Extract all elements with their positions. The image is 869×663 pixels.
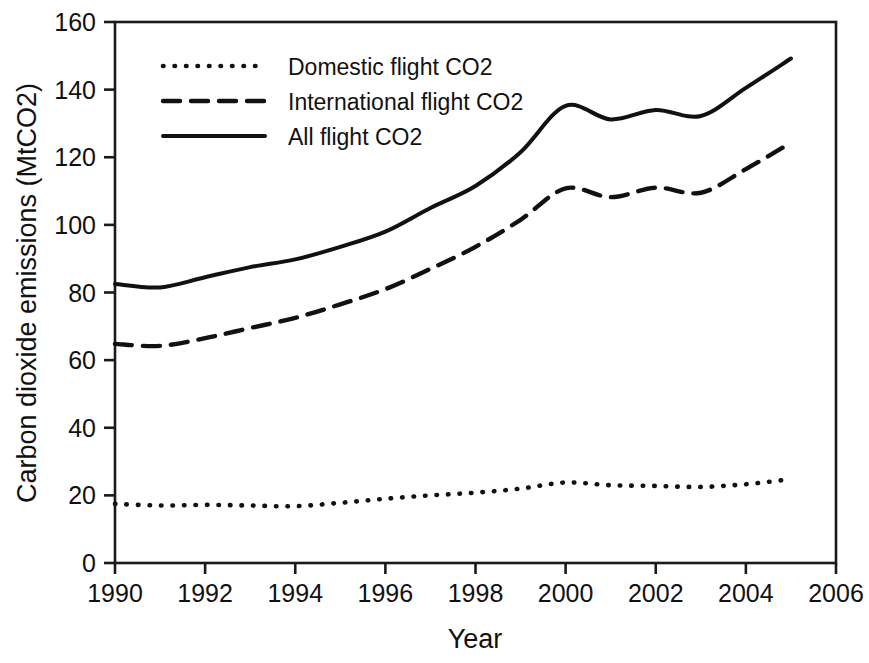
y-tick-label-100: 100 [54, 211, 96, 239]
x-axis-tick-labels: 199019921994199619982000200220042006 [87, 579, 864, 607]
series-line-dashed [115, 143, 791, 346]
y-tick-label-140: 140 [54, 76, 96, 104]
x-tick-label-2000: 2000 [538, 579, 594, 607]
y-tick-label-120: 120 [54, 143, 96, 171]
x-tick-label-1994: 1994 [267, 579, 323, 607]
y-tick-label-40: 40 [68, 414, 96, 442]
series-line-dotted [115, 479, 791, 506]
x-axis-title: Year [448, 624, 503, 654]
y-tick-label-80: 80 [68, 279, 96, 307]
legend-label-2: All flight CO2 [288, 124, 422, 150]
legend-label-1: International flight CO2 [288, 89, 523, 115]
x-tick-label-2002: 2002 [628, 579, 684, 607]
x-axis-ticks [115, 563, 836, 574]
y-tick-label-20: 20 [68, 481, 96, 509]
chart-legend: Domestic flight CO2International flight … [163, 54, 523, 150]
x-tick-label-1998: 1998 [448, 579, 504, 607]
y-tick-label-0: 0 [82, 549, 96, 577]
data-series-group [115, 59, 791, 507]
y-axis-ticks [104, 22, 115, 563]
x-tick-label-1996: 1996 [358, 579, 414, 607]
legend-label-0: Domestic flight CO2 [288, 54, 493, 80]
y-axis-tick-labels: 020406080100120140160 [54, 8, 96, 577]
y-axis-title: Carbon dioxide emissions (MtCO2) [12, 83, 42, 503]
x-tick-label-2006: 2006 [808, 579, 864, 607]
x-tick-label-1992: 1992 [177, 579, 233, 607]
chart-figure: 020406080100120140160 199019921994199619… [0, 0, 869, 663]
y-tick-label-160: 160 [54, 8, 96, 36]
x-tick-label-2004: 2004 [718, 579, 774, 607]
y-tick-label-60: 60 [68, 346, 96, 374]
x-tick-label-1990: 1990 [87, 579, 143, 607]
line-chart: 020406080100120140160 199019921994199619… [0, 0, 869, 663]
